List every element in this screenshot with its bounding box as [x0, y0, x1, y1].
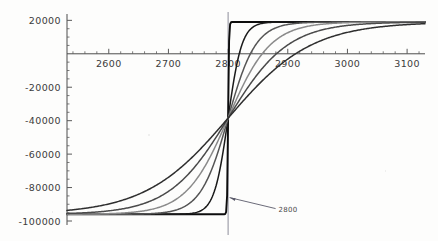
y-tick-label: -80000 — [25, 182, 61, 193]
curve-series-2 — [67, 22, 425, 214]
curve-series-1 — [67, 22, 425, 214]
plot-canvas: 26002700280029003000310020000-20000-4000… — [0, 0, 438, 241]
y-tick-label: 20000 — [29, 15, 61, 26]
curve-series-3 — [67, 22, 425, 214]
annotation-arrow-head — [230, 198, 236, 201]
sigmoid-family-chart: 26002700280029003000310020000-20000-4000… — [0, 0, 438, 241]
y-tick-label: -40000 — [25, 115, 61, 126]
curve-series-4 — [67, 22, 425, 213]
x-tick-label: 2600 — [96, 58, 122, 69]
x-tick-label: 3000 — [335, 58, 361, 69]
y-tick-label: -20000 — [25, 82, 61, 93]
x-tick-label: 3100 — [394, 58, 420, 69]
annotation-arrow-line — [230, 198, 276, 209]
annotation-label: 2800 — [279, 206, 298, 214]
y-tick-label: -100000 — [19, 216, 62, 227]
curve-series-0 — [67, 22, 425, 214]
x-tick-label: 2700 — [156, 58, 182, 69]
y-tick-label: -60000 — [25, 149, 61, 160]
